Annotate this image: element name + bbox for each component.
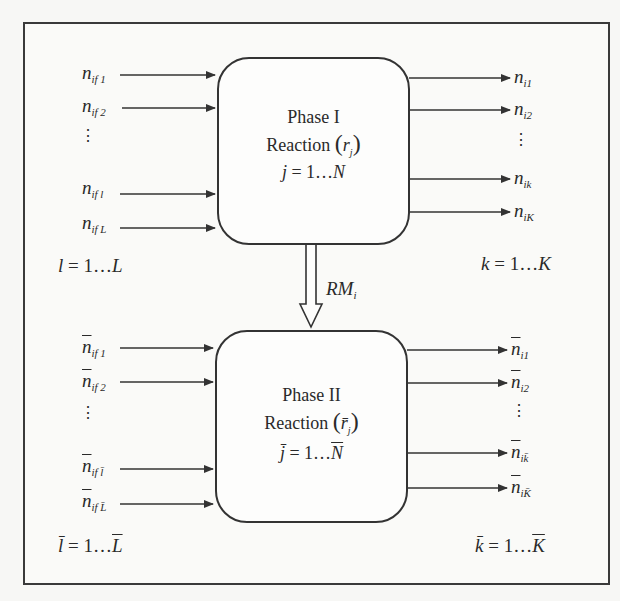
transfer-label: RMi — [326, 278, 357, 301]
phase1-input-range: l = 1…L — [58, 255, 123, 277]
phase2-input-label: nif l̄ — [82, 455, 103, 478]
phase2-output-range: k̄ = 1…K — [475, 535, 545, 557]
phase1-output-label: ni1 — [514, 66, 532, 89]
phase1-reaction: Reaction (rj) — [219, 132, 408, 164]
phase1-output-label: ni2 — [514, 98, 532, 121]
phase1-input-label: nif l — [82, 177, 103, 200]
phase1-index-range: j = 1…N — [219, 161, 408, 183]
phase2-index-range: j̄ = 1…N — [217, 442, 406, 464]
phase1-input-label: nif L — [82, 212, 106, 235]
phase1-output-range: k = 1…K — [481, 253, 551, 275]
phase1-input-label: nif 2 — [82, 95, 106, 118]
phase1-output-label: niK — [514, 200, 534, 223]
phase2-output-label: niK̄ — [511, 476, 531, 499]
ellipsis-vertical: ⋮ — [80, 133, 90, 139]
phase1-output-label: nik — [514, 167, 531, 190]
phase2-output-label: ni2 — [511, 371, 529, 394]
ellipsis-vertical: ⋮ — [511, 408, 521, 414]
phase2-input-label: nif 1 — [82, 336, 106, 359]
phase2-output-label: nik̄ — [511, 441, 528, 464]
phase1-box: Phase I Reaction (rj) j = 1…N — [217, 57, 410, 245]
transfer-arrow — [300, 244, 322, 327]
phase2-box: Phase II Reaction (r̄j) j̄ = 1…N — [215, 330, 408, 523]
ellipsis-vertical: ⋮ — [80, 410, 90, 416]
phase2-reaction: Reaction (r̄j) — [217, 410, 406, 442]
phase2-input-label: nif 2 — [82, 370, 106, 393]
phase2-title: Phase II — [217, 384, 406, 406]
phase1-title: Phase I — [219, 106, 408, 128]
phase2-input-label: nif L̄ — [82, 490, 106, 513]
phase1-input-label: nif 1 — [82, 62, 106, 85]
ellipsis-vertical: ⋮ — [513, 137, 523, 143]
phase2-input-range: l̄ = 1…L — [58, 535, 123, 557]
phase2-output-label: ni1 — [511, 338, 529, 361]
